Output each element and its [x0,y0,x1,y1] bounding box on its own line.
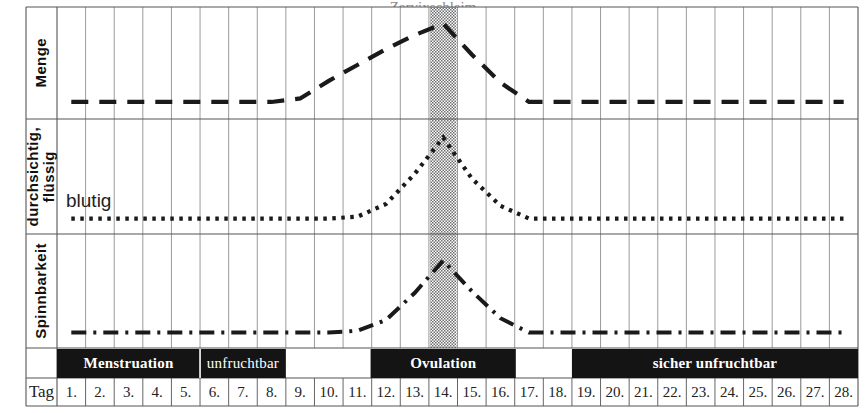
day-cell-28: 28. [829,378,858,406]
phase-label-menstruation: Menstruation [57,349,200,378]
day-cell-25: 25. [744,378,773,406]
cervical-mucus-chart: Zervixschleim MenstruationunfruchtbarOvu… [0,0,866,413]
day-cell-10: 10. [314,378,343,406]
day-cell-12: 12. [372,378,401,406]
day-cell-11: 11. [343,378,372,406]
day-cell-20: 20. [601,378,630,406]
day-cell-16: 16. [486,378,515,406]
day-cell-17: 17. [515,378,544,406]
row-label-text-spinnbarkeit: Spinnbarkeit [33,243,49,339]
day-cell-2: 2. [86,378,115,406]
day-cell-14: 14. [429,378,458,406]
day-cell-7: 7. [229,378,258,406]
phase-label-sicher-unfruchtbar: sicher unfruchtbar [572,349,858,378]
day-cell-27: 27. [801,378,830,406]
day-cell-19: 19. [572,378,601,406]
row-label-text-menge: Menge [33,38,49,88]
day-cell-8: 8. [257,378,286,406]
day-cell-24: 24. [715,378,744,406]
day-cell-23: 23. [686,378,715,406]
annotation-blutig: blutig [66,190,111,212]
day-cell-22: 22. [658,378,687,406]
day-cell-5: 5. [171,378,200,406]
day-cell-21: 21. [629,378,658,406]
row-label-text-durchsichtig: durchsichtig, flüssig [26,127,57,226]
day-cell-1: 1. [57,378,86,406]
phase-label-ovulation: Ovulation [372,349,515,378]
day-cell-9: 9. [286,378,315,406]
day-cell-3: 3. [114,378,143,406]
day-cell-18: 18. [543,378,572,406]
phase-label-unfruchtbar: unfruchtbar [200,349,286,378]
day-cell-26: 26. [772,378,801,406]
row-label-spinnbarkeit: Spinnbarkeit [26,234,57,348]
day-cell-4: 4. [143,378,172,406]
day-cell-13: 13. [400,378,429,406]
day-cell-15: 15. [458,378,487,406]
row-label-menge: Menge [26,7,57,119]
day-cell-6: 6. [200,378,229,406]
day-row-header: Tag [26,378,57,406]
row-label-durchsichtig: durchsichtig, flüssig [26,119,57,234]
